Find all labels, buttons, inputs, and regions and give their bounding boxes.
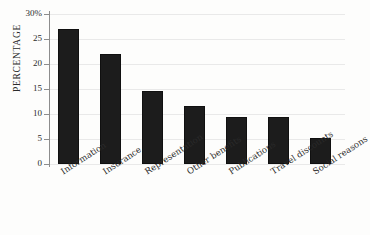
- y-axis-tick-label: 15: [0, 83, 42, 93]
- y-axis-tick-label: 0: [0, 158, 42, 168]
- gridline: [50, 89, 345, 90]
- bar: [58, 29, 79, 164]
- y-axis-tick-label: 5: [0, 133, 42, 143]
- gridline: [50, 14, 345, 15]
- y-axis-tick-label: 25: [0, 33, 42, 43]
- y-axis-tick-label: 30%: [0, 8, 42, 18]
- gridline: [50, 39, 345, 40]
- y-axis-tick-label: 20: [0, 58, 42, 68]
- y-axis-tick-label: 10: [0, 108, 42, 118]
- bar: [142, 91, 163, 165]
- gridline: [50, 64, 345, 65]
